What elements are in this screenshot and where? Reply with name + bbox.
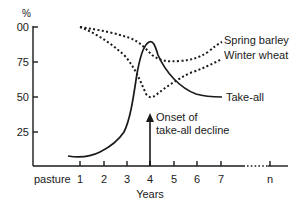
x-tick-label-5: 5 [171,173,177,185]
x-tick-label-4: 4 [147,173,153,185]
x-tick-label-2: 2 [101,173,107,185]
series-take-all-line [68,42,222,157]
y-unit-label: % [22,8,31,19]
x-tick-label-7: 7 [218,173,224,185]
annotation-line-1: Onset of [156,111,199,123]
series-label-spring-barley: Spring barley [224,34,289,46]
annotation-line-2: take-all decline [156,124,229,136]
crop-yield-take-all-chart: % 00 75 50 25 pasture 1 2 3 4 5 6 7 n Ye… [0,0,305,201]
y-tick-label-00: 00 [17,21,29,33]
onset-arrow-head-icon [146,113,154,122]
x-tick-label-3: 3 [124,173,130,185]
x-tick-label-1: 1 [77,173,83,185]
y-tick-label-50: 50 [17,91,29,103]
series-label-winter-wheat: Winter wheat [224,49,288,61]
y-tick-label-25: 25 [17,126,29,138]
series-winter-wheat-line [80,27,222,97]
x-axis-title: Years [136,188,164,200]
x-tick-label-n: n [267,173,273,185]
x-tick-label-pasture: pasture [34,173,71,185]
chart-canvas: % 00 75 50 25 pasture 1 2 3 4 5 6 7 n Ye… [0,0,305,201]
x-tick-label-6: 6 [194,173,200,185]
series-label-take-all: Take-all [226,91,264,103]
series-spring-barley-line [80,27,222,61]
y-tick-label-75: 75 [17,56,29,68]
